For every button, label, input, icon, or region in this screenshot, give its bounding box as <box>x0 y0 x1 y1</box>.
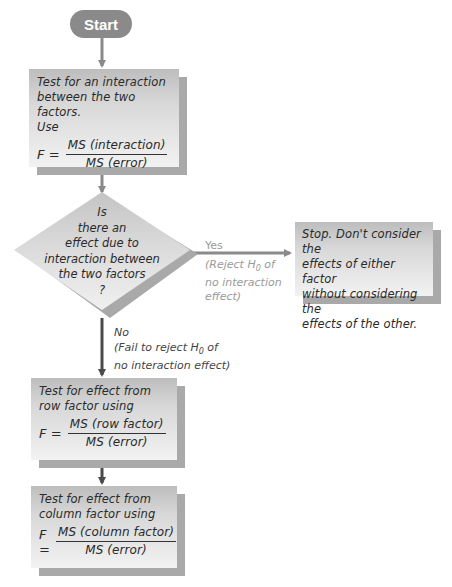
no-label: No <box>114 326 129 340</box>
interaction-line2: between the two factors. <box>37 90 171 120</box>
f-ratio-interaction: F = MS (interaction) MS (error) <box>37 138 171 171</box>
numerator: MS (row factor) <box>68 417 166 434</box>
interaction-keyword: interaction <box>103 75 166 89</box>
no-note: (Fail to reject H0 of no interaction eff… <box>114 341 264 373</box>
row-factor-box: Test for effect from row factor using F … <box>31 378 185 468</box>
decision-question: Is there an effect due to interaction be… <box>32 205 172 298</box>
start-label: Start <box>84 16 118 33</box>
denominator: MS (error) <box>86 434 148 450</box>
column-factor-box: Test for effect from column factor using… <box>31 486 185 576</box>
numerator: MS (column factor) <box>56 525 176 542</box>
yes-label: Yes <box>205 239 223 253</box>
numerator: MS (interaction) <box>66 138 168 155</box>
interaction-test-box: Test for an interaction between the two … <box>29 69 187 175</box>
stop-box: Stop. Don't consider the effects of eith… <box>295 222 441 304</box>
interaction-line3: Use <box>37 120 171 135</box>
denominator: MS (error) <box>86 155 148 171</box>
interaction-line1: Test for an <box>37 75 103 89</box>
f-ratio-column: F = MS (column factor) MS (error) <box>39 525 169 558</box>
start-terminal: Start <box>70 10 132 38</box>
denominator: MS (error) <box>85 542 147 558</box>
f-ratio-row: F = MS (row factor) MS (error) <box>39 417 169 450</box>
yes-note: (Reject H0 of no interaction effect) <box>205 258 295 304</box>
